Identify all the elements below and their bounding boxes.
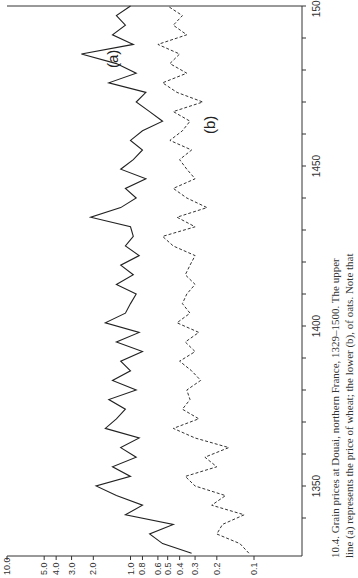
price-tick-label: 4.0 [51,562,61,575]
price-tick-label: 0.5 [163,562,173,575]
price-axis: 10.05.04.03.02.01.00.80.60.50.40.30.20.1 [2,556,302,575]
year-tick-label: 1400 [311,314,322,337]
price-tick-label: 10.0 [2,557,12,575]
price-tick-label: 0.4 [175,562,185,575]
year-tick-label: 1450 [311,154,322,177]
price-tick-label: 2.0 [88,562,98,575]
series-b-label: (b) [201,116,218,134]
price-tick-label: 3.0 [67,562,77,575]
price-tick-label: 0.8 [137,562,147,575]
price-tick-label: 1.0 [126,562,136,575]
figure-caption-line1: 10.4. Grain prices at Douai, northern Fr… [329,258,341,558]
oats-price-line [158,6,249,553]
wheat-price-line [81,6,191,553]
year-tick-label: 1350 [311,474,322,497]
price-tick-label: 5.0 [39,562,49,575]
price-tick-label: 0.1 [249,562,259,575]
grain-price-figure: 10.05.04.03.02.01.00.80.60.50.40.30.20.1… [0,0,358,578]
series-a-label: (a) [104,50,121,68]
price-tick-label: 0.6 [153,562,163,575]
figure-caption-line2: line (a) represents the price of wheat; … [343,253,356,558]
price-tick-label: 0.2 [212,562,222,575]
year-axis: 1350140014501500 [7,0,322,556]
year-tick-label: 1500 [311,0,322,17]
price-tick-label: 0.3 [190,562,200,575]
